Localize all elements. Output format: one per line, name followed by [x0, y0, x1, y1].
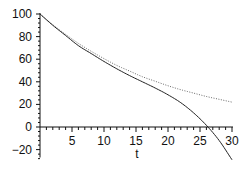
y-tick-label: 40 [19, 75, 33, 89]
x-tick-label: 20 [161, 134, 175, 148]
x-tick-label: 25 [193, 134, 207, 148]
line-chart: 100806040200−20 51015202530 t [0, 0, 250, 169]
x-tick-label: 30 [225, 134, 239, 148]
y-tick-label: 80 [19, 30, 33, 44]
y-tick-label: 100 [12, 7, 32, 21]
y-tick-label: 60 [19, 52, 33, 66]
x-axis-ticks [46, 127, 232, 132]
series-dotted-line [40, 14, 232, 102]
y-axis-ticks [36, 14, 40, 159]
y-tick-label: 0 [25, 120, 32, 134]
y-tick-label: −20 [12, 143, 33, 157]
y-axis-tick-labels: 100806040200−20 [12, 7, 33, 157]
x-axis-label: t [135, 147, 139, 161]
x-tick-label: 10 [97, 134, 111, 148]
y-tick-label: 20 [19, 97, 33, 111]
x-tick-label: 15 [129, 134, 143, 148]
x-tick-label: 5 [69, 134, 76, 148]
x-axis-tick-labels: 51015202530 [69, 134, 239, 148]
